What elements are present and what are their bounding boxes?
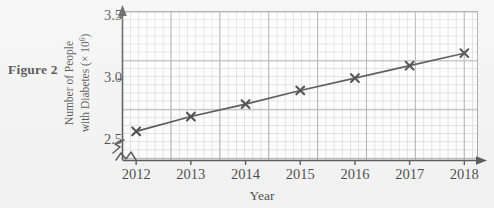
figure-container: Figure 2 Number of People with Diabetes …	[0, 0, 494, 208]
figure-caption: Figure 2	[8, 62, 58, 78]
x-axis-tick-label: 2014	[231, 166, 260, 183]
x-axis-tick-label: 2017	[395, 166, 424, 183]
plot-frame-top	[122, 11, 478, 12]
y-axis-tick-label: 3.0	[104, 69, 122, 86]
plot-frame-right	[477, 11, 478, 160]
x-axis-tick-label: 2012	[122, 166, 151, 183]
y-axis-title: Number of People with Diabetes (× 106)	[52, 12, 102, 154]
x-axis-tick-label: 2015	[286, 166, 315, 183]
x-axis-title: Year	[250, 188, 275, 204]
x-axis-tick-label: 2016	[340, 166, 369, 183]
y-axis-tick-label: 3.5	[104, 7, 122, 24]
y-axis-title-exponent: 6	[78, 37, 87, 41]
y-axis-title-line1: Number of People	[63, 41, 75, 125]
x-axis-tick-label: 2013	[176, 166, 205, 183]
x-axis-tick-marks	[136, 160, 464, 165]
y-axis-tick-labels: 2.53.03.5	[96, 0, 122, 180]
y-axis-tick-label: 2.5	[104, 131, 122, 148]
y-axis-title-line2: with Diabetes (× 10	[79, 41, 91, 132]
plot-area	[122, 11, 478, 160]
x-axis-tick-label: 2018	[450, 166, 479, 183]
x-axis-tick-labels: 2012201320142015201620172018	[122, 166, 494, 188]
y-axis-title-line2-close: )	[79, 34, 91, 38]
plot-major-gridlines	[122, 11, 478, 160]
